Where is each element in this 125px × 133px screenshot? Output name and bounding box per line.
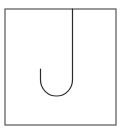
square-frame xyxy=(5,9,116,125)
j-hook-curve xyxy=(41,9,73,96)
figure-canvas xyxy=(0,0,125,133)
